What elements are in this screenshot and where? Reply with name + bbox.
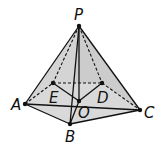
- pyramid-diagram: P A B C D E O: [0, 0, 161, 150]
- label-p: P: [74, 6, 84, 24]
- label-b: B: [65, 128, 75, 146]
- label-a: A: [10, 96, 21, 114]
- label-o: O: [78, 104, 90, 122]
- label-d: D: [97, 89, 109, 107]
- label-e: E: [49, 89, 59, 107]
- label-c: C: [144, 104, 155, 122]
